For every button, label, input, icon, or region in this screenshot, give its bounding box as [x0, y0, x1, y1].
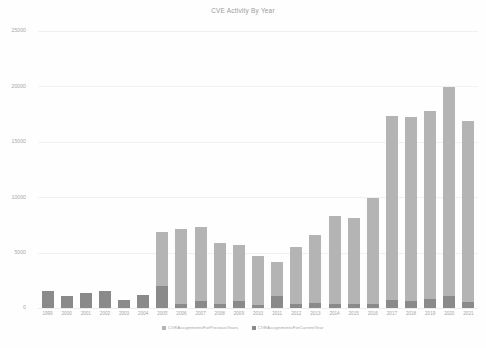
y-axis-tick-label: 0: [0, 305, 26, 310]
bar-column[interactable]: [252, 256, 264, 308]
chart-container: CVE Activity By Year 0500010000150002000…: [0, 0, 486, 348]
bar-segment-previous-years: [271, 262, 283, 296]
bar-segment-previous-years: [424, 111, 436, 299]
bar-segment-previous-years: [252, 256, 264, 305]
bar-segment-current-year: [462, 302, 474, 308]
bar-series-group: [38, 31, 478, 308]
bar-segment-current-year: [42, 291, 54, 308]
bar-segment-current-year: [405, 301, 417, 308]
bar-column[interactable]: [386, 116, 398, 308]
y-axis-tick-label: 25000: [0, 28, 26, 33]
bar-column[interactable]: [233, 245, 245, 308]
bar-segment-current-year: [233, 301, 245, 308]
bar-segment-previous-years: [233, 245, 245, 301]
bar-column[interactable]: [137, 295, 149, 308]
bar-column[interactable]: [118, 300, 130, 308]
bar-segment-previous-years: [386, 116, 398, 300]
bar-segment-current-year: [80, 293, 92, 308]
bar-column[interactable]: [309, 235, 321, 308]
bar-segment-current-year: [61, 296, 73, 308]
bar-column[interactable]: [99, 291, 111, 308]
bar-segment-current-year: [443, 296, 455, 308]
gridline: [38, 308, 478, 309]
legend-item-label: CVEAssignmentsForCurrentYear: [258, 326, 324, 330]
y-axis-tick-label: 15000: [0, 139, 26, 144]
bar-segment-previous-years: [367, 198, 379, 304]
bar-segment-current-year: [118, 300, 130, 308]
bar-column[interactable]: [367, 198, 379, 308]
bar-segment-current-year: [156, 286, 168, 308]
bar-column[interactable]: [405, 117, 417, 308]
bar-column[interactable]: [271, 262, 283, 308]
bar-segment-previous-years: [195, 227, 207, 301]
bar-column[interactable]: [195, 227, 207, 308]
bar-column[interactable]: [156, 232, 168, 308]
bar-column[interactable]: [348, 218, 360, 308]
bar-segment-current-year: [252, 305, 264, 308]
bar-column[interactable]: [329, 216, 341, 309]
bar-segment-current-year: [348, 304, 360, 308]
bar-segment-current-year: [175, 304, 187, 308]
y-axis-tick-label: 5000: [0, 250, 26, 255]
chart-legend: CVEAssignmentsForPreviousYearsCVEAssignm…: [0, 326, 486, 330]
bar-segment-previous-years: [348, 218, 360, 304]
bar-column[interactable]: [80, 293, 92, 308]
bar-segment-previous-years: [443, 87, 455, 296]
bar-segment-previous-years: [290, 247, 302, 304]
bar-segment-previous-years: [309, 235, 321, 303]
bar-segment-current-year: [309, 303, 321, 308]
bar-column[interactable]: [424, 111, 436, 308]
bar-column[interactable]: [443, 87, 455, 308]
bar-column[interactable]: [290, 247, 302, 308]
bar-segment-previous-years: [175, 229, 187, 304]
bar-segment-current-year: [386, 300, 398, 308]
bar-column[interactable]: [214, 243, 226, 308]
legend-item[interactable]: CVEAssignmentsForPreviousYears: [162, 326, 238, 330]
bar-segment-current-year: [329, 304, 341, 308]
chart-title: CVE Activity By Year: [0, 7, 486, 14]
bar-segment-current-year: [367, 304, 379, 308]
bar-segment-current-year: [214, 304, 226, 308]
bar-segment-previous-years: [405, 117, 417, 301]
bar-segment-current-year: [195, 301, 207, 308]
bar-segment-current-year: [137, 295, 149, 308]
bar-segment-previous-years: [156, 232, 168, 286]
bar-segment-previous-years: [462, 121, 474, 303]
y-axis-tick-label: 10000: [0, 195, 26, 200]
bar-segment-current-year: [290, 304, 302, 308]
legend-swatch-icon: [162, 326, 166, 330]
bar-column[interactable]: [42, 291, 54, 308]
bar-column[interactable]: [462, 121, 474, 308]
bar-segment-previous-years: [329, 216, 341, 304]
bar-segment-current-year: [99, 291, 111, 308]
legend-item-label: CVEAssignmentsForPreviousYears: [168, 326, 238, 330]
bar-segment-current-year: [424, 299, 436, 308]
bar-segment-previous-years: [214, 243, 226, 303]
legend-item[interactable]: CVEAssignmentsForCurrentYear: [252, 326, 323, 330]
x-axis-tick-label: 2021: [455, 312, 481, 317]
plot-area: 0500010000150002000025000 19992000200120…: [38, 31, 478, 308]
y-axis-tick-label: 20000: [0, 84, 26, 89]
bar-segment-current-year: [271, 296, 283, 308]
legend-swatch-icon: [252, 326, 256, 330]
bar-column[interactable]: [61, 296, 73, 308]
bar-column[interactable]: [175, 229, 187, 308]
